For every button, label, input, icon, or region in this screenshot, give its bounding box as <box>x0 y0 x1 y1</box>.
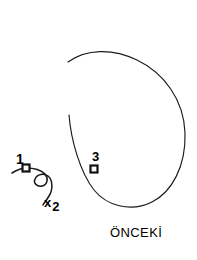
figure-drawing <box>0 0 197 260</box>
large-loop-curve <box>68 52 185 208</box>
axis-x-subscript: 2 <box>52 199 59 214</box>
figure-caption: ÖNCEKİ <box>110 225 162 240</box>
label-point-1: 1 <box>16 152 24 166</box>
label-axis-x2: x2 <box>44 196 58 209</box>
figure-container: 1 3 x2 ÖNCEKİ <box>0 0 197 260</box>
axis-x-letter: x <box>44 195 51 210</box>
label-point-3: 3 <box>92 150 99 163</box>
marker-square-3 <box>91 166 98 173</box>
